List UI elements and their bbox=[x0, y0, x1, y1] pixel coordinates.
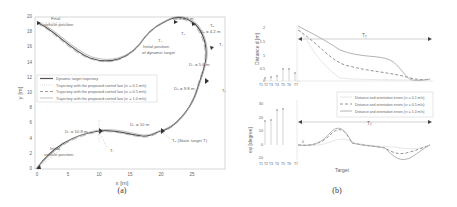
stems-b-top bbox=[265, 69, 295, 81]
svg-text:D₂ = 10 m: D₂ = 10 m bbox=[130, 122, 150, 127]
svg-text:12: 12 bbox=[27, 75, 33, 80]
line-vt-0.1-bottom bbox=[298, 139, 430, 149]
y-tick-labels-b-top: 00.51 1.52 bbox=[260, 26, 265, 83]
y-tick-labels-b-bottom: -10010 2030 bbox=[258, 102, 264, 160]
svg-text:T₅: T₅ bbox=[210, 23, 215, 28]
svg-text:0: 0 bbox=[261, 143, 263, 147]
y-axis-label-a: y [m] bbox=[17, 86, 23, 99]
y-tick-labels-a: 024 6810 121416 1820 bbox=[27, 14, 33, 171]
x-axis-label-b: Target bbox=[335, 167, 350, 173]
svg-text:T₄: T₄ bbox=[219, 42, 224, 47]
legend-b: Distance and orientation errors (vₜ = 0.… bbox=[337, 92, 433, 117]
svg-text:10: 10 bbox=[27, 90, 33, 95]
caption-a: (a) bbox=[118, 186, 127, 195]
svg-text:1.5: 1.5 bbox=[260, 40, 265, 44]
svg-text:T2: T2 bbox=[264, 83, 268, 87]
svg-text:5: 5 bbox=[67, 172, 70, 177]
svg-text:D₅ = 4.2 m: D₅ = 4.2 m bbox=[200, 29, 221, 34]
svg-text:T₃ (Static target T): T₃ (Static target T) bbox=[172, 138, 208, 143]
svg-text:T5: T5 bbox=[281, 83, 285, 87]
legend-item-vt-0.1: Trajectory with the proposed control law… bbox=[56, 84, 147, 88]
svg-text:20: 20 bbox=[259, 116, 263, 120]
svg-text:T7: T7 bbox=[294, 162, 298, 166]
svg-text:20: 20 bbox=[158, 172, 164, 177]
svg-text:T₆: T₆ bbox=[181, 31, 186, 36]
caption-b: (b) bbox=[332, 186, 342, 195]
legend-b-vt-0.1: Distance and orientation errors (vₜ = 0.… bbox=[355, 96, 424, 100]
y-axis-label-b-top: Distance d [m] bbox=[254, 32, 260, 65]
svg-text:T4: T4 bbox=[275, 83, 279, 87]
svg-text:D₆ = 3.1 m: D₆ = 3.1 m bbox=[173, 16, 194, 21]
t7-label-bottom: T₇ bbox=[367, 120, 372, 126]
svg-text:D₄ = 5.0 m: D₄ = 5.0 m bbox=[189, 62, 210, 67]
svg-text:8: 8 bbox=[29, 105, 32, 110]
svg-text:0: 0 bbox=[302, 140, 304, 144]
svg-text:16: 16 bbox=[27, 44, 33, 49]
svg-text:T6: T6 bbox=[287, 83, 291, 87]
legend-item-vt-0.5: Trajectory with the proposed control law… bbox=[56, 90, 147, 94]
svg-text:T7: T7 bbox=[294, 83, 298, 87]
svg-text:vehicle position: vehicle position bbox=[44, 22, 74, 27]
svg-text:Initial: Initial bbox=[50, 146, 60, 151]
svg-text:18: 18 bbox=[27, 29, 33, 34]
svg-text:T₇: T₇ bbox=[158, 38, 163, 43]
svg-text:0: 0 bbox=[36, 172, 39, 177]
line-vt-0.5-bottom bbox=[298, 130, 430, 154]
legend-a: Dynamic target trajectory Trajectory wit… bbox=[37, 75, 157, 102]
svg-text:T1: T1 bbox=[259, 162, 263, 166]
svg-text:T₂: T₂ bbox=[222, 88, 227, 93]
svg-text:-10: -10 bbox=[258, 156, 264, 160]
panel-a: 024 6810 121416 1820 0510 152025 x [m] y… bbox=[17, 14, 227, 195]
svg-text:D₁ = 10.8 m: D₁ = 10.8 m bbox=[65, 129, 88, 134]
svg-text:1: 1 bbox=[263, 54, 265, 58]
t7-label-top: T₇ bbox=[362, 32, 367, 38]
svg-text:T3: T3 bbox=[269, 162, 273, 166]
svg-text:T2: T2 bbox=[264, 162, 268, 166]
svg-text:T₁: T₁ bbox=[110, 148, 115, 153]
svg-text:2: 2 bbox=[263, 26, 265, 30]
svg-text:6: 6 bbox=[29, 120, 32, 125]
svg-text:T4: T4 bbox=[275, 162, 279, 166]
svg-text:of dynamic target: of dynamic target bbox=[142, 50, 176, 55]
svg-text:25: 25 bbox=[189, 172, 195, 177]
svg-text:10: 10 bbox=[259, 129, 263, 133]
stems-b-bottom bbox=[265, 109, 283, 145]
svg-text:20: 20 bbox=[27, 14, 33, 19]
svg-text:0.5: 0.5 bbox=[260, 67, 265, 71]
svg-text:T6: T6 bbox=[287, 162, 291, 166]
stem-markers-b-bottom bbox=[264, 108, 284, 122]
svg-text:14: 14 bbox=[27, 60, 33, 65]
svg-text:Initial position: Initial position bbox=[143, 44, 170, 49]
x-tick-labels-b-bottom: T1T2T3 T4T5T6T7 bbox=[259, 162, 298, 166]
svg-text:T3: T3 bbox=[269, 83, 273, 87]
svg-text:D₃ = 9.8 m: D₃ = 9.8 m bbox=[174, 86, 195, 91]
legend-b-vt-1.0: Distance and orientation errors (vₜ = 1.… bbox=[355, 110, 424, 114]
svg-text:vehicle position: vehicle position bbox=[44, 152, 74, 157]
legend-item-dynamic-target: Dynamic target trajectory bbox=[56, 77, 98, 81]
figure: 024 6810 121416 1820 0510 152025 x [m] y… bbox=[0, 0, 457, 207]
svg-text:30: 30 bbox=[259, 102, 263, 106]
line-vt-1.0-bottom bbox=[298, 128, 430, 159]
svg-text:4: 4 bbox=[29, 136, 32, 141]
svg-text:T5: T5 bbox=[281, 162, 285, 166]
stem-markers-b-top bbox=[264, 68, 296, 79]
svg-text:2: 2 bbox=[29, 151, 32, 156]
x-tick-labels-b-top: T1T2T3 T4T5T6T7 bbox=[259, 83, 298, 87]
svg-text:0: 0 bbox=[29, 166, 32, 171]
legend-b-vt-0.5: Distance and orientation errors (vₜ = 0.… bbox=[355, 103, 424, 107]
svg-text:10: 10 bbox=[96, 172, 102, 177]
x-tick-labels-a: 0510 152025 bbox=[36, 172, 195, 177]
svg-text:Final: Final bbox=[51, 16, 60, 21]
legend-item-vt-1.0: Trajectory with the proposed control law… bbox=[56, 97, 147, 101]
svg-text:15: 15 bbox=[127, 172, 133, 177]
panel-b-top: Distance d [m] 00.51 1.52 T1T2T3 T4T5T6T… bbox=[254, 25, 433, 87]
y-axis-label-b-bottom: eφ [degree] bbox=[247, 127, 253, 153]
svg-text:T1: T1 bbox=[259, 83, 263, 87]
